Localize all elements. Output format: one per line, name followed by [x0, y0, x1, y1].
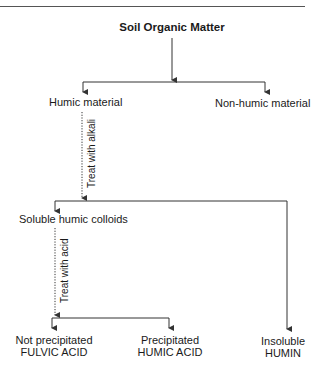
leaf-humic-line1: Precipitated	[138, 334, 203, 346]
root-node: Soil Organic Matter	[119, 21, 224, 33]
leaf-humin-line2: HUMIN	[261, 347, 305, 359]
node-non-humic-material: Non-humic material	[215, 97, 310, 109]
leaf-humic-line2: HUMIC ACID	[138, 346, 203, 358]
leaf-fulvic-line1: Not precipitated	[15, 334, 92, 346]
node-soluble-humic-colloids: Soluble humic colloids	[19, 213, 128, 225]
leaf-humic-acid: Precipitated HUMIC ACID	[138, 334, 203, 358]
diagram-connectors	[0, 0, 320, 382]
leaf-humin-line1: Insoluble	[261, 335, 305, 347]
leaf-fulvic-acid: Not precipitated FULVIC ACID	[15, 334, 92, 358]
step-label-alkali: Treat with alkali	[86, 119, 97, 188]
leaf-humin: Insoluble HUMIN	[261, 335, 305, 359]
step-label-acid: Treat with acid	[59, 238, 70, 303]
node-humic-material: Humic material	[49, 96, 122, 108]
leaf-fulvic-line2: FULVIC ACID	[15, 346, 92, 358]
